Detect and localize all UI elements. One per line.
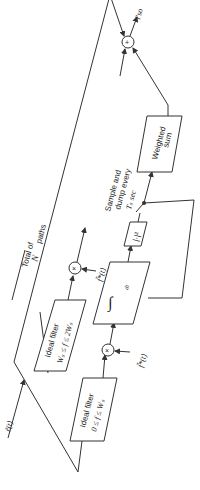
lowpass-filter-block: Ideal filter 0 ≤ f ≤ Wₛ (70, 378, 117, 441)
input-signal: r̃(t) (3, 380, 24, 438)
magnitude-squared-block: |·|² (124, 222, 147, 246)
svg-text:Total of: Total of (20, 241, 36, 269)
path-line-to-sum (40, 0, 110, 262)
summer: + (122, 36, 134, 48)
multiplier-lower: × f̃*(t) (102, 344, 149, 369)
bandpass-filter-block: Ideal filter Wₛ ≤ f ≤ 2Wₛ (34, 300, 86, 371)
block-diagram: r̃(t) Ideal filter 0 ≤ f ≤ Wₛ Ideal filt… (0, 0, 200, 490)
svg-text:+: + (125, 39, 129, 46)
multiplier-upper: × f̃*(t) (69, 262, 108, 283)
svg-text:N: N (29, 253, 41, 263)
svg-text:×: × (105, 347, 109, 354)
sample-annotation: Sample and dump every Tₛ sec (103, 168, 138, 213)
lower-path (78, 441, 82, 472)
split-line-lower (14, 362, 78, 472)
weighted-sum-block: Weighted sum (137, 116, 182, 172)
svg-text:f̃*(t): f̃*(t) (136, 352, 149, 368)
svg-text:×: × (72, 265, 76, 272)
output-label: l'so (133, 8, 145, 21)
